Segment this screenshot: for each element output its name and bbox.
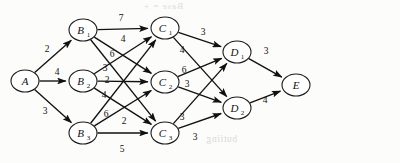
edge-weight-c2-d1: 6 <box>182 65 187 75</box>
edge-weight-b1-c2: 4 <box>121 34 126 44</box>
node-subscript-d2: 2 <box>241 109 245 117</box>
node-label-c3: C <box>159 127 167 139</box>
edge-weight-b2-c2: 2 <box>105 75 110 85</box>
node-label-a: A <box>21 75 29 87</box>
node-b2[interactable]: B2 <box>69 70 97 92</box>
node-d2[interactable]: D2 <box>223 97 251 119</box>
node-label-c1: C <box>159 22 167 34</box>
edge-weight-a-b1: 2 <box>45 44 50 54</box>
edge-c3-to-d2 <box>178 113 221 128</box>
node-subscript-d1: 1 <box>241 53 245 61</box>
edge-weight-b2-c1: 3 <box>103 63 108 73</box>
node-a[interactable]: A <box>11 70 39 92</box>
node-subscript-c2: 2 <box>169 83 173 91</box>
node-label-b1: B <box>77 24 84 36</box>
edge-d1-to-e <box>249 59 282 77</box>
edge-weight-d1-e: 3 <box>264 46 269 56</box>
edge-weight-c1-d1: 3 <box>201 27 206 37</box>
node-label-b3: B <box>77 127 84 139</box>
node-c2[interactable]: C2 <box>151 71 179 93</box>
node-e[interactable]: E <box>282 74 310 96</box>
edge-a-to-b1 <box>35 40 72 72</box>
edge-weight-c1-d2: 4 <box>180 45 185 55</box>
node-c3[interactable]: C3 <box>151 122 179 144</box>
node-subscript-b2: 2 <box>87 82 91 90</box>
edge-weight-b1-c1: 7 <box>119 13 124 23</box>
node-subscript-b1: 1 <box>87 31 91 39</box>
node-label-e: E <box>292 79 300 91</box>
node-label-b2: B <box>77 75 84 87</box>
edge-weight-b3-c1: 6 <box>104 109 109 119</box>
node-c1[interactable]: C1 <box>151 17 179 39</box>
node-subscript-b3: 3 <box>87 134 91 142</box>
edge-weight-d2-e: 4 <box>263 95 268 105</box>
edge-weight-c3-d2: 3 <box>193 132 198 142</box>
edge-weight-b3-c3: 5 <box>120 144 125 154</box>
edge-weight-c3-d1: 3 <box>180 112 185 122</box>
edge-b1-to-c1 <box>97 28 147 29</box>
edge-weight-b1-c3: 6 <box>110 49 115 59</box>
edge-a-to-b3 <box>35 90 72 123</box>
graph-figure: AB1B2B3C1C2C3D1D2E 24374632462534633334 … <box>0 0 400 163</box>
edge-weight-a-b3: 3 <box>43 106 48 116</box>
node-label-c2: C <box>159 76 167 88</box>
graph-canvas: AB1B2B3C1C2C3D1D2E 24374632462534633334 <box>0 0 400 163</box>
node-b1[interactable]: B1 <box>69 19 97 41</box>
node-b3[interactable]: B3 <box>69 122 97 144</box>
edge-weight-a-b2: 4 <box>55 67 60 77</box>
node-d1[interactable]: D1 <box>223 41 251 63</box>
edge-weight-b3-c2: 2 <box>122 116 127 126</box>
node-label-d2: D <box>230 102 239 114</box>
node-subscript-c3: 3 <box>169 134 173 142</box>
edge-weight-c2-d2: 3 <box>185 79 190 89</box>
node-subscript-c1: 1 <box>169 29 173 37</box>
node-label-d1: D <box>230 46 239 58</box>
edge-weight-b2-c3: 4 <box>102 90 107 100</box>
